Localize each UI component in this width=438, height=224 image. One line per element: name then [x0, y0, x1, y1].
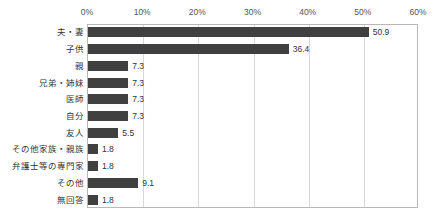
category-label: 子供: [0, 44, 84, 54]
bar-value-label: 1.8: [102, 144, 114, 154]
bar: [88, 27, 369, 37]
bar-row: その他家族・親族1.8: [0, 141, 438, 158]
category-label: 自分: [0, 111, 84, 121]
bar-row: 兄弟・姉妹7.3: [0, 74, 438, 91]
x-tick-label: 40%: [299, 7, 316, 17]
bar-value-label: 1.8: [102, 195, 114, 205]
x-tick-label: 50%: [354, 7, 371, 17]
bar-value-label: 50.9: [373, 27, 390, 37]
bar-value-label: 7.3: [132, 111, 144, 121]
x-tick-label: 30%: [244, 7, 261, 17]
bar: [88, 61, 128, 71]
bar-value-label: 5.5: [122, 128, 134, 138]
bar-value-label: 7.3: [132, 94, 144, 104]
bar-row: 弁護士等の専門家1.8: [0, 158, 438, 175]
category-label: 兄弟・姉妹: [0, 78, 84, 88]
x-tick-label: 20%: [189, 7, 206, 17]
bar: [88, 195, 98, 205]
category-label: 夫・妻: [0, 27, 84, 37]
category-label: その他: [0, 178, 84, 188]
x-tick-label: 60%: [409, 7, 426, 17]
bar-rows: 夫・妻50.9子供36.4親7.3兄弟・姉妹7.3医師7.3自分7.3友人5.5…: [0, 24, 438, 208]
x-axis-ticks: 0%10%20%30%40%50%60%: [0, 0, 438, 24]
x-tick-label: 10%: [134, 7, 151, 17]
bar-value-label: 7.3: [132, 61, 144, 71]
bar-value-label: 1.8: [102, 161, 114, 171]
bar-row: 夫・妻50.9: [0, 24, 438, 41]
bar-row: 医師7.3: [0, 91, 438, 108]
bar: [88, 161, 98, 171]
category-label: 親: [0, 61, 84, 71]
bar-chart: 0%10%20%30%40%50%60% 夫・妻50.9子供36.4親7.3兄弟…: [0, 0, 438, 224]
bar: [88, 111, 128, 121]
category-label: 医師: [0, 94, 84, 104]
bar-row: 友人5.5: [0, 124, 438, 141]
bar-value-label: 9.1: [142, 178, 154, 188]
bar: [88, 44, 289, 54]
bar-row: その他9.1: [0, 175, 438, 192]
bar-value-label: 36.4: [293, 44, 310, 54]
bar-row: 親7.3: [0, 57, 438, 74]
bar: [88, 78, 128, 88]
bar-value-label: 7.3: [132, 78, 144, 88]
category-label: その他家族・親族: [0, 144, 84, 154]
bar: [88, 94, 128, 104]
category-label: 友人: [0, 128, 84, 138]
bar-row: 無回答1.8: [0, 191, 438, 208]
bar: [88, 178, 138, 188]
bar-row: 子供36.4: [0, 41, 438, 58]
category-label: 無回答: [0, 195, 84, 205]
bar: [88, 144, 98, 154]
category-label: 弁護士等の専門家: [0, 161, 84, 171]
bar-row: 自分7.3: [0, 108, 438, 125]
x-tick-label: 0%: [81, 7, 93, 17]
bar: [88, 128, 118, 138]
